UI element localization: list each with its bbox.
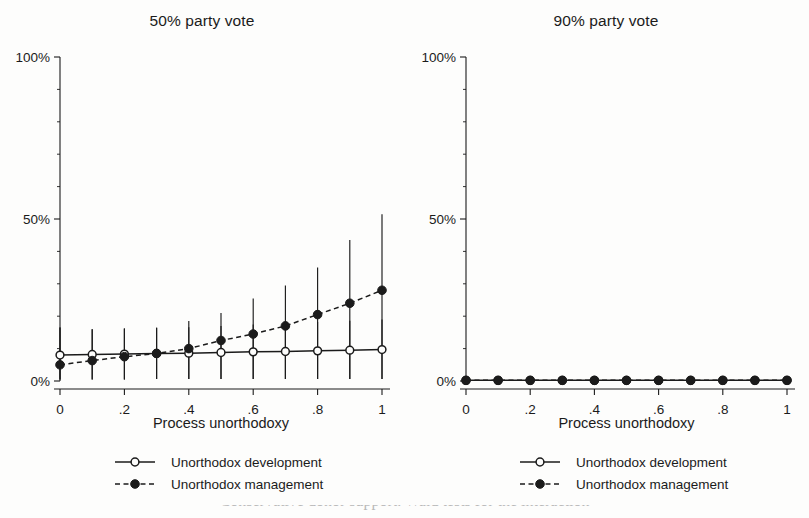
legend-marker-management <box>536 480 545 489</box>
panel-right: 90% party vote 0%50%100%0.2.4.6.81Proces… <box>404 0 808 518</box>
marker-management <box>751 376 760 385</box>
x-tick-label: 1 <box>783 402 791 417</box>
marker-development <box>217 349 225 357</box>
x-tick-label: .2 <box>525 402 536 417</box>
marker-management <box>719 376 728 385</box>
figure-container: 50% party vote 0%50%100%0.2.4.6.81Proces… <box>0 0 809 518</box>
marker-development <box>378 346 386 354</box>
y-tick-label: 50% <box>429 212 456 227</box>
marker-management <box>654 376 663 385</box>
legend-label-management: Unorthodox management <box>576 477 729 492</box>
marker-management <box>88 356 97 365</box>
marker-management <box>526 376 535 385</box>
x-tick-label: 0 <box>462 402 470 417</box>
legend-marker-development <box>536 458 544 466</box>
figure-caption-cutoff: Conservative donor support. Wald tests f… <box>0 505 809 518</box>
x-tick-label: 1 <box>378 402 386 417</box>
marker-management <box>494 376 503 385</box>
marker-management <box>590 376 599 385</box>
y-tick-label: 50% <box>23 212 50 227</box>
legend-marker-management <box>131 480 140 489</box>
legend-label-development: Unorthodox development <box>171 455 322 470</box>
legend-marker-development <box>131 458 139 466</box>
marker-management <box>313 310 322 319</box>
panel-left-plot: 0%50%100%0.2.4.6.81Process unorthodoxyUn… <box>0 0 404 518</box>
marker-management <box>281 322 290 331</box>
y-tick-label: 100% <box>15 50 50 65</box>
marker-management <box>378 286 387 295</box>
marker-development <box>282 348 290 356</box>
marker-development <box>249 348 257 356</box>
marker-management <box>622 376 631 385</box>
marker-management <box>783 376 792 385</box>
marker-management <box>217 336 226 345</box>
x-tick-label: .2 <box>119 402 130 417</box>
x-tick-label: 0 <box>56 402 64 417</box>
marker-development <box>56 351 64 359</box>
marker-management <box>56 361 65 370</box>
marker-development <box>314 347 322 355</box>
x-axis-label: Process unorthodoxy <box>153 415 290 431</box>
y-tick-label: 0% <box>436 374 456 389</box>
figure-caption-text: Conservative donor support. Wald tests f… <box>0 505 809 510</box>
panel-right-plot: 0%50%100%0.2.4.6.81Process unorthodoxyUn… <box>404 0 809 518</box>
marker-management <box>558 376 567 385</box>
marker-management <box>346 299 355 308</box>
x-axis-label: Process unorthodoxy <box>558 415 695 431</box>
marker-management <box>686 376 695 385</box>
marker-management <box>462 376 471 385</box>
panel-left: 50% party vote 0%50%100%0.2.4.6.81Proces… <box>0 0 404 518</box>
x-tick-label: .8 <box>312 402 323 417</box>
legend-label-development: Unorthodox development <box>576 455 727 470</box>
marker-management <box>249 330 258 339</box>
marker-management <box>152 349 161 358</box>
y-tick-label: 100% <box>421 50 456 65</box>
x-tick-label: .8 <box>717 402 728 417</box>
marker-management <box>185 344 194 353</box>
legend-label-management: Unorthodox management <box>171 477 324 492</box>
marker-management <box>120 352 129 361</box>
y-tick-label: 0% <box>30 374 50 389</box>
marker-development <box>346 346 354 354</box>
